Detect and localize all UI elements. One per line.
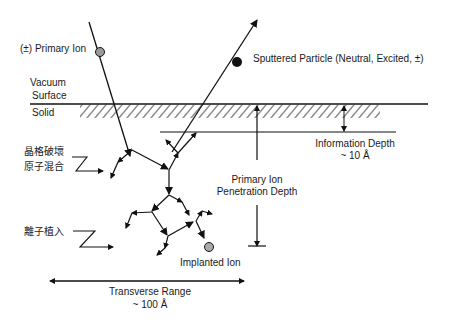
- lattice-damage-label: 晶格破壞: [24, 145, 64, 159]
- information-depth-value: ~ 10 Å: [300, 150, 410, 162]
- information-depth-label: Information Depth: [300, 138, 410, 150]
- implantation-pointer: [73, 231, 113, 247]
- solid-label: Solid: [32, 107, 54, 119]
- primary-ion-label: (±) Primary Ion: [20, 43, 86, 55]
- ion-implantation-label: 離子植入: [24, 225, 64, 239]
- sputtered-particle-label: Sputtered Particle (Neutral, Excited, ±): [253, 53, 424, 65]
- penetration-depth-label-2: Penetration Depth: [210, 186, 304, 198]
- sputtered-particle-icon: [232, 57, 242, 67]
- vacuum-label: Vacuum: [30, 77, 66, 89]
- implanted-ion-icon: [205, 243, 214, 252]
- collision-cascade: [111, 133, 212, 255]
- implanted-ion-label: Implanted Ion: [180, 257, 241, 269]
- lattice-damage-pointer: [72, 157, 103, 171]
- penetration-depth-label-1: Primary Ion: [210, 174, 304, 186]
- transverse-range-value: ~ 100 Å: [90, 299, 210, 311]
- solid-hatch: [80, 105, 380, 118]
- primary-ion-path: [89, 22, 130, 156]
- primary-ion-icon: [96, 48, 105, 57]
- transverse-range-label: Transverse Range: [90, 286, 210, 298]
- surface-label: Surface: [32, 90, 66, 102]
- atomic-mixing-label: 原子混合: [24, 160, 64, 174]
